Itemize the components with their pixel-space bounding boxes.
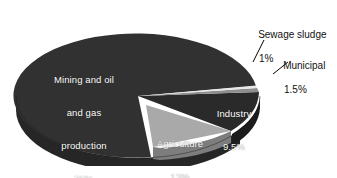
industry-label-value: 9.5% [203,141,265,152]
mining-label-line1: Mining and oil [32,74,136,85]
pie-chart: Mining and oil and gas production 75% Ag… [0,0,337,178]
sewage-label-name: Sewage sludge [258,29,326,40]
mining-label-line2: and gas [32,107,136,118]
municipal-label-value: 1.5% [272,84,336,96]
industry-slice-label: Industry 9.5% [203,86,265,174]
municipal-slice-callout: Municipal 1.5% [272,48,336,120]
mining-label-value: 75% [32,173,136,178]
mining-slice-label: Mining and oil and gas production 75% [32,52,136,178]
industry-label-name: Industry [203,108,265,119]
municipal-label-name: Municipal [283,60,325,71]
mining-label-line3: production [32,140,136,151]
